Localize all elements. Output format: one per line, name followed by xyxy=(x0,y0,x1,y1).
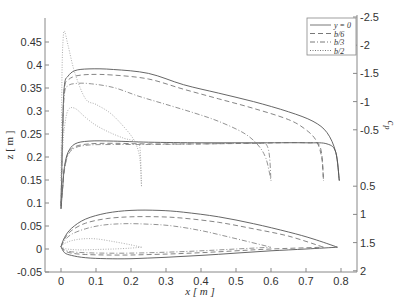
profile-lower-b-3 xyxy=(61,247,271,254)
cp-upper-curve-y-0 xyxy=(61,69,339,209)
left-y-axis-label: z [ m ] xyxy=(3,130,15,159)
cp-lower-curve-b-6 xyxy=(61,143,324,206)
cp-upper-curve-b-6 xyxy=(61,74,324,206)
left-y-tick-label: 0 xyxy=(36,243,42,255)
right-y-axis-label: cp xyxy=(383,121,398,130)
left-y-ticks: -0.0500.050.10.150.20.250.30.350.40.45 xyxy=(17,36,49,278)
right-y-tick-label: -0.5 xyxy=(360,124,379,136)
right-y-tick-label: 1 xyxy=(360,208,366,220)
profile-upper-b-6 xyxy=(61,217,324,248)
right-y-tick-label: -1 xyxy=(360,96,370,108)
cp-upper-curve-b-2 xyxy=(61,31,142,186)
legend-item-label: b/2 xyxy=(334,47,344,56)
left-y-tick-label: 0.3 xyxy=(27,105,42,117)
left-y-tick-label: 0.35 xyxy=(21,82,42,94)
right-y-tick-label: 1.5 xyxy=(360,237,375,249)
data-curves xyxy=(61,31,339,259)
x-tick-label: 0 xyxy=(58,275,64,287)
right-y-tick-label: -1.5 xyxy=(360,67,379,79)
profile-upper-y-0 xyxy=(61,210,338,247)
cp-lower-curve-y-0 xyxy=(61,141,339,209)
right-y-tick-label: -2.5 xyxy=(360,11,379,23)
left-y-tick-label: -0.05 xyxy=(17,266,42,278)
left-y-tick-label: 0.45 xyxy=(21,36,42,48)
right-y-tick-label: 2 xyxy=(360,265,366,277)
x-tick-label: 0.1 xyxy=(88,275,103,287)
left-y-tick-label: 0.05 xyxy=(21,220,42,232)
profile-upper-b-3 xyxy=(61,224,271,248)
x-tick-label: 0.6 xyxy=(263,275,278,287)
left-y-tick-label: 0.4 xyxy=(27,59,42,71)
right-y-tick-label: 0.5 xyxy=(360,180,375,192)
left-y-tick-label: 0.1 xyxy=(27,197,42,209)
x-tick-label: 0.5 xyxy=(228,275,243,287)
x-tick-label: 0.7 xyxy=(298,275,313,287)
profile-upper-b-2 xyxy=(61,239,142,248)
cp-lower-curve-b-2 xyxy=(61,108,142,187)
cp-lower-curve-b-3 xyxy=(61,143,271,203)
left-y-tick-label: 0.25 xyxy=(21,128,42,140)
legend: y = 0b/6b/3b/2 xyxy=(307,18,356,56)
x-axis-label: x [ m ] xyxy=(184,285,215,297)
right-y-tick-label: -2 xyxy=(360,39,370,51)
left-y-tick-label: 0.15 xyxy=(21,174,42,186)
profile-lower-b-2 xyxy=(61,247,142,250)
chart: 00.10.20.30.40.50.60.70.8 -0.0500.050.10… xyxy=(0,0,399,304)
x-tick-label: 0.2 xyxy=(123,275,138,287)
x-tick-label: 0.8 xyxy=(333,275,348,287)
x-tick-label: 0.3 xyxy=(158,275,173,287)
left-y-tick-label: 0.2 xyxy=(27,151,42,163)
